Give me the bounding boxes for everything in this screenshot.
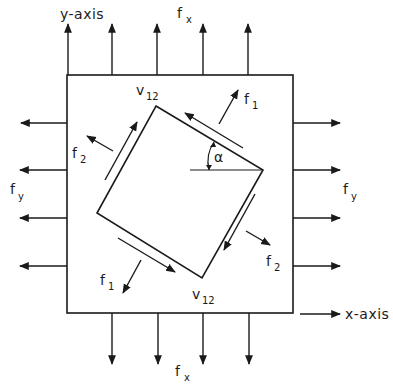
fy-right-label: f y	[343, 181, 357, 202]
fy-left-label: f y	[10, 181, 24, 202]
fx-top-label: f x	[177, 5, 192, 25]
svg-text:f: f	[72, 145, 78, 161]
svg-text:f: f	[266, 253, 272, 269]
svg-text:f: f	[343, 181, 349, 197]
svg-text:1: 1	[108, 281, 114, 292]
svg-text:12: 12	[202, 295, 215, 306]
left-fy-arrows	[20, 123, 67, 266]
svg-text:f: f	[100, 272, 106, 288]
x-axis-label: x-axis	[345, 306, 389, 322]
svg-text:12: 12	[146, 91, 159, 102]
svg-text:2: 2	[80, 154, 86, 165]
svg-text:v: v	[192, 286, 200, 302]
svg-text:2: 2	[274, 262, 280, 273]
svg-text:y: y	[18, 191, 24, 202]
svg-text:y: y	[351, 191, 357, 202]
f1-top-label: f 1	[244, 91, 258, 111]
svg-text:1: 1	[252, 100, 258, 111]
v12-bottom-label: v 12	[192, 286, 215, 306]
svg-text:x: x	[186, 14, 192, 25]
f1-bottom-label: f 1	[100, 272, 114, 292]
shear-arrows	[105, 113, 255, 272]
svg-text:f: f	[244, 91, 250, 107]
alpha-angle-label: α	[214, 149, 223, 165]
svg-text:f: f	[10, 181, 16, 197]
svg-text:x: x	[184, 372, 190, 383]
svg-text:v: v	[136, 82, 144, 98]
v12-top-label: v 12	[136, 82, 159, 102]
right-fy-arrows	[293, 123, 340, 266]
top-fx-arrows	[68, 24, 248, 75]
y-axis-label: y-axis	[60, 6, 104, 22]
f2-right-label: f 2	[266, 253, 280, 273]
rotated-principal-element	[97, 106, 263, 278]
bottom-fx-arrows	[112, 313, 249, 364]
svg-text:f: f	[177, 5, 183, 21]
svg-text:f: f	[175, 363, 181, 379]
fx-bottom-label: f x	[175, 363, 190, 383]
f2-left-label: f 2	[72, 145, 86, 165]
stress-element-diagram: y-axis x-axis f x f x f y f y v 12 v 12 …	[0, 0, 393, 385]
